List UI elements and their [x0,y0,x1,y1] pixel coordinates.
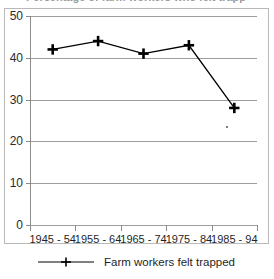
gridline-0 [30,225,257,226]
x-tick-label-4: 1985 - 94 [211,234,257,245]
x-tick-label-0: 1945 - 54 [29,234,75,245]
chart-title: Percentage of farm workers who felt trap… [26,0,246,3]
data-point-marker-4 [229,103,239,113]
x-tick-mark-4 [212,225,213,231]
y-tick-label-30: 30 [10,94,23,106]
x-tick-mark-5 [257,225,258,231]
chart-legend: Farm workers felt trapped [4,250,269,274]
plot-area: 01020304050 1945 - 541955 - 641965 - 741… [30,16,257,225]
image-artifact-speck [226,126,228,128]
x-tick-mark-1 [75,225,76,231]
plot-frame: 01020304050 1945 - 541955 - 641965 - 741… [4,8,269,244]
y-tick-label-0: 0 [16,219,23,231]
x-tick-mark-0 [30,225,31,231]
x-tick-label-2: 1965 - 74 [120,234,166,245]
legend-label: Farm workers felt trapped [104,256,235,268]
series-line-plot [30,16,257,225]
data-point-marker-0 [48,44,58,54]
data-point-marker-3 [184,40,194,50]
x-tick-mark-3 [166,225,167,231]
x-tick-mark-2 [121,225,122,231]
data-point-marker-1 [93,36,103,46]
y-tick-label-40: 40 [10,52,23,64]
plus-marker-icon [38,256,94,268]
y-tick-label-10: 10 [10,177,23,189]
legend-item: Farm workers felt trapped [38,256,235,268]
y-tick-label-50: 50 [10,10,23,22]
chart-figure: Percentage of farm workers who felt trap… [0,0,274,279]
x-tick-label-3: 1975 - 84 [166,234,212,245]
y-tick-label-20: 20 [10,135,23,147]
data-point-marker-2 [138,48,148,58]
x-tick-label-1: 1955 - 64 [75,234,121,245]
